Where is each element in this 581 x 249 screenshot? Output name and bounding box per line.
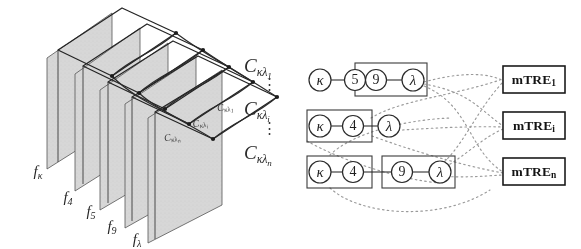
mtre-label-n: mTREn — [512, 164, 557, 181]
figure-root: fκ f4 f5 f9 fλ Cκλ1 Cκλi Cκλn Cκλ1 ⋮ Cκλ… — [0, 0, 581, 249]
row-n-node-lambda-label: λ — [437, 164, 444, 181]
row-i-node-4-label: 4 — [350, 118, 357, 134]
row-n-node-9-label: 9 — [399, 164, 406, 180]
row-i-node-kappa-label: κ — [316, 118, 323, 135]
row-1-node-lambda-label: λ — [410, 72, 417, 89]
row-n-node-4-label: 4 — [350, 164, 357, 180]
row-n-node-kappa-label: κ — [316, 164, 323, 181]
row-1-node-9-label: 9 — [373, 72, 380, 88]
graph-row-n — [307, 156, 455, 188]
row-i-node-lambda-label: λ — [386, 118, 393, 135]
mtre-label-i: mTREi — [513, 118, 555, 135]
row-1-node-5-label: 5 — [352, 72, 359, 88]
dotted-link-curves — [307, 75, 505, 212]
mtre-label-1: mTRE1 — [512, 72, 556, 89]
node-graph-illustration — [0, 0, 581, 249]
row-1-node-kappa-label: κ — [316, 72, 323, 89]
